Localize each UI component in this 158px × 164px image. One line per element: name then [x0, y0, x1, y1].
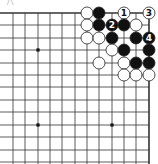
black-stone: 4: [143, 32, 155, 44]
board-grid: [0, 13, 149, 164]
black-stone: [143, 57, 155, 69]
white-stone: [130, 69, 142, 81]
white-stone: [93, 32, 105, 44]
black-stone: [93, 19, 105, 31]
go-board: 1324: [0, 0, 158, 164]
move-number-label: 3: [146, 8, 152, 18]
white-stone: [118, 69, 130, 81]
black-stone: [118, 44, 130, 56]
white-stone: [118, 57, 130, 69]
white-stone: [81, 7, 93, 19]
black-stone: [118, 19, 130, 31]
black-stone: [130, 32, 142, 44]
black-stone: [93, 7, 105, 19]
star-point: [110, 123, 113, 126]
move-number-label: 4: [146, 33, 152, 43]
white-stone: [81, 32, 93, 44]
white-stone: [81, 19, 93, 31]
black-stone: [106, 32, 118, 44]
black-stone: [130, 57, 142, 69]
white-stone: [130, 19, 142, 31]
white-stone: 3: [143, 7, 155, 19]
white-stone: [106, 44, 118, 56]
move-number-label: 2: [109, 20, 115, 30]
white-stone: 1: [118, 7, 130, 19]
move-number-label: 1: [121, 8, 127, 18]
star-point: [36, 48, 39, 51]
black-stone: 2: [106, 19, 118, 31]
black-stone: [143, 44, 155, 56]
stones: 1324: [81, 7, 155, 81]
white-stone: [143, 69, 155, 81]
white-stone: [93, 57, 105, 69]
star-point: [36, 123, 39, 126]
